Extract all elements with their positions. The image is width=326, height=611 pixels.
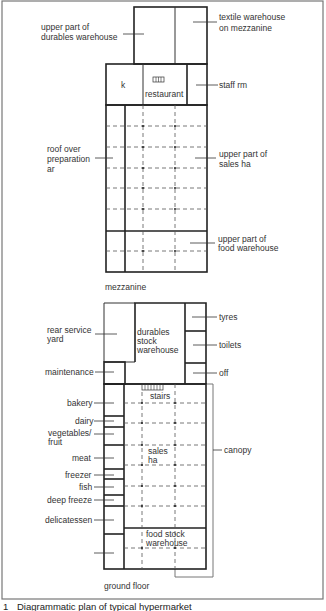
label-durables-stock-3: warehouse bbox=[136, 345, 179, 355]
ground-floor-title: ground floor bbox=[104, 581, 150, 591]
label-toilets: toilets bbox=[219, 340, 241, 350]
column-dots bbox=[141, 402, 176, 549]
label-roof-prep-3: ar bbox=[47, 164, 55, 174]
mezzanine-title: mezzanine bbox=[105, 282, 146, 292]
label-office: off bbox=[219, 368, 229, 378]
label-canopy: canopy bbox=[224, 445, 252, 455]
label-meat: meat bbox=[72, 453, 92, 463]
label-food-stock-2: warehouse bbox=[145, 538, 188, 548]
mezzanine-body bbox=[106, 105, 207, 272]
maintenance-room bbox=[104, 362, 125, 384]
label-sales-upper-1: upper part of bbox=[219, 149, 268, 159]
stairs-icon bbox=[153, 77, 164, 82]
label-stairs: stairs bbox=[150, 391, 170, 401]
label-staff-room: staff rm bbox=[219, 80, 247, 90]
figure-caption: Diagrammatic plan of typical hypermarket bbox=[17, 601, 192, 611]
label-fish: fish bbox=[79, 482, 93, 492]
label-delicatessen: delicatessen bbox=[45, 515, 93, 525]
hypermarket-plan-figure: upper part of durables warehouse textile… bbox=[0, 0, 326, 611]
label-dairy: dairy bbox=[75, 416, 94, 426]
label-deep-freeze: deep freeze bbox=[47, 495, 92, 505]
label-roof-prep-1: roof over bbox=[47, 144, 81, 154]
mezzanine-plan: upper part of durables warehouse textile… bbox=[41, 7, 285, 292]
durables-textile-block bbox=[134, 7, 207, 64]
label-rear-service-yard-2: yard bbox=[47, 334, 64, 344]
label-textile-2: on mezzanine bbox=[219, 23, 272, 33]
column-dots bbox=[142, 125, 176, 252]
label-vegetables-fruit-2: fruit bbox=[48, 437, 63, 447]
label-sales-upper-2: sales ha bbox=[219, 159, 251, 169]
label-food-upper-2: food warehouse bbox=[218, 243, 279, 253]
label-durables-upper-1: upper part of bbox=[41, 22, 90, 32]
label-maintenance: maintenance bbox=[45, 367, 94, 377]
label-restaurant: restaurant bbox=[145, 89, 184, 99]
label-roof-prep-2: preparation bbox=[47, 154, 90, 164]
label-bakery: bakery bbox=[67, 398, 93, 408]
label-sales-hall-2: ha bbox=[148, 455, 158, 465]
label-kitchen: k bbox=[121, 80, 126, 90]
ground-floor-plan: rear service yard durables stock warehou… bbox=[45, 303, 252, 591]
figure-number: 1 bbox=[3, 601, 8, 611]
label-durables-upper-2: durables warehouse bbox=[41, 32, 118, 42]
label-freezer: freezer bbox=[65, 470, 92, 480]
label-textile-1: textile warehouse bbox=[219, 12, 285, 22]
label-tyres: tyres bbox=[219, 312, 237, 322]
stairs-icon bbox=[142, 384, 163, 390]
